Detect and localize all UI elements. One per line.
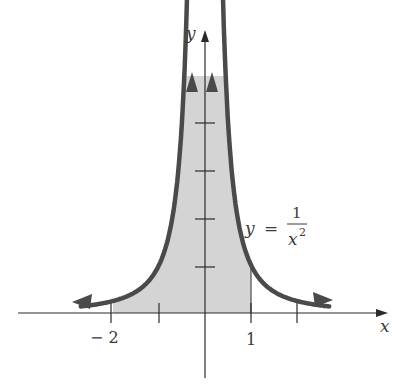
x-tick-label-neg-two: − 2: [90, 328, 119, 347]
equation-lhs: y: [244, 218, 255, 238]
y-axis-arrow-icon: [201, 30, 209, 42]
x-tick-label-one: 1: [246, 330, 256, 349]
equation-numerator: 1: [292, 204, 302, 222]
equation-denominator-exponent: 2: [299, 226, 306, 239]
equation-equals: =: [264, 218, 278, 238]
equation-denominator-base: x: [288, 229, 298, 249]
equation-label: y = 1 x 2: [244, 204, 307, 249]
y-axis-label: y: [185, 23, 196, 43]
x-axis-label: x: [380, 316, 390, 336]
graph-figure: y x − 2 1 y = 1 x 2: [0, 0, 407, 390]
